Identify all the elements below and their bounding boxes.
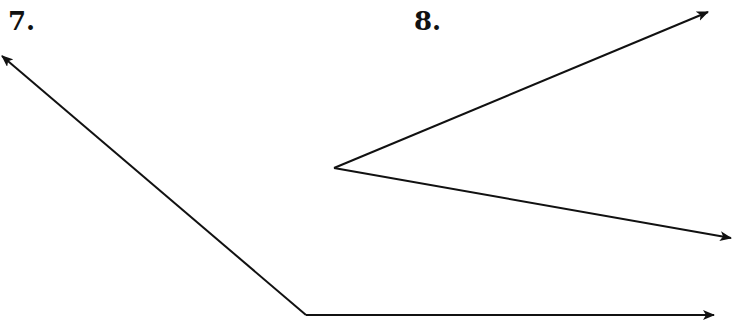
angle-8-ray-lower <box>334 168 731 238</box>
angle-diagram <box>0 0 733 331</box>
angle-8-ray-upper <box>334 12 708 168</box>
angle-8 <box>334 12 731 238</box>
angle-7-ray-upper-left <box>2 56 306 315</box>
angle-7 <box>2 56 714 315</box>
